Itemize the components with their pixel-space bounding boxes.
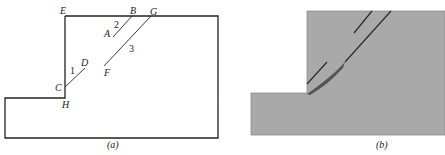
label-B: B [130, 5, 136, 16]
label-crack-1: 1 [70, 65, 75, 76]
panel-b: (b) [251, 11, 445, 151]
caption-a: (a) [107, 139, 119, 151]
figure: E B G A D F C H 1 2 3 (a) (b) [0, 0, 445, 155]
label-G: G [150, 6, 157, 17]
label-A: A [103, 28, 111, 39]
label-E: E [59, 5, 66, 16]
label-C: C [55, 82, 62, 93]
crack-3-line [104, 16, 151, 66]
caption-b: (b) [376, 139, 388, 151]
label-crack-3: 3 [129, 43, 134, 54]
label-D: D [80, 57, 89, 68]
label-crack-2: 2 [114, 19, 119, 30]
slope-body [251, 11, 445, 135]
label-F: F [103, 67, 111, 78]
panel-a: E B G A D F C H 1 2 3 (a) [5, 5, 218, 151]
slope-outline [5, 16, 218, 138]
label-H: H [61, 99, 70, 110]
crack-1-line [65, 68, 85, 87]
